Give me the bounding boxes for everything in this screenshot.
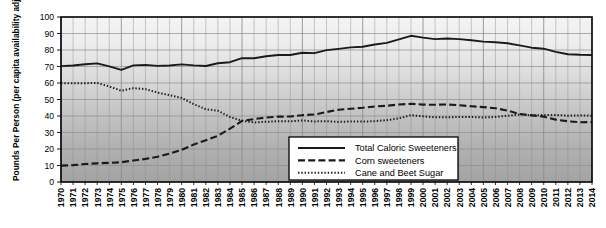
x-tick-label: 1988 (274, 188, 284, 207)
x-tick-label: 1991 (310, 188, 320, 207)
x-tick-label: 1992 (322, 188, 332, 207)
y-tick-label: 40 (44, 111, 54, 121)
x-axis-ticks: 1970197119721973197419751976197719781979… (56, 182, 597, 207)
x-tick-label: 1982 (201, 188, 211, 207)
x-tick-label: 1975 (117, 188, 127, 207)
legend-label: Corn sweeteners (355, 156, 425, 166)
x-tick-label: 1993 (334, 188, 344, 207)
y-tick-label: 90 (44, 29, 54, 39)
x-tick-label: 2005 (479, 188, 489, 207)
legend-label: Cane and Beet Sugar (355, 168, 443, 178)
x-tick-label: 1978 (153, 188, 163, 207)
y-tick-label: 10 (44, 161, 54, 171)
x-tick-label: 1984 (225, 188, 235, 207)
x-tick-label: 2014 (587, 188, 597, 207)
x-tick-label: 1985 (237, 188, 247, 207)
x-tick-label: 1987 (261, 188, 271, 207)
x-tick-label: 1980 (177, 188, 187, 207)
y-tick-label: 0 (49, 177, 54, 187)
x-tick-label: 2002 (442, 188, 452, 207)
x-tick-label: 2013 (575, 188, 585, 207)
x-tick-label: 1997 (382, 188, 392, 207)
x-tick-label: 1990 (298, 188, 308, 207)
x-tick-label: 2006 (491, 188, 501, 207)
chart-container: Pounds Per Person (per capita availabili… (0, 0, 606, 228)
y-tick-label: 50 (44, 95, 54, 105)
chart-plot: 0102030405060708090100 19701971197219731… (0, 0, 606, 228)
x-tick-label: 1986 (249, 188, 259, 207)
x-tick-label: 1995 (358, 188, 368, 207)
x-tick-label: 1981 (189, 188, 199, 207)
x-tick-label: 2007 (503, 188, 513, 207)
chart-legend: Total Caloric SweetenersCorn sweetenersC… (289, 137, 458, 180)
x-tick-label: 1971 (68, 188, 78, 207)
x-tick-label: 1972 (80, 188, 90, 207)
y-tick-label: 30 (44, 128, 54, 138)
y-tick-label: 60 (44, 78, 54, 88)
y-tick-label: 100 (40, 12, 55, 22)
x-tick-label: 2009 (527, 188, 537, 207)
x-tick-label: 2011 (551, 188, 561, 207)
y-tick-label: 20 (44, 144, 54, 154)
x-tick-label: 2003 (455, 188, 465, 207)
y-tick-label: 70 (44, 62, 54, 72)
x-tick-label: 1983 (213, 188, 223, 207)
x-tick-label: 1979 (165, 188, 175, 207)
x-tick-label: 1970 (56, 188, 66, 207)
y-axis-ticks: 0102030405060708090100 (40, 12, 61, 187)
legend-label: Total Caloric Sweeteners (355, 143, 457, 153)
x-tick-label: 1977 (141, 188, 151, 207)
x-tick-label: 2012 (563, 188, 573, 207)
x-tick-label: 2001 (430, 188, 440, 207)
x-tick-label: 2008 (515, 188, 525, 207)
x-tick-label: 2010 (539, 188, 549, 207)
x-tick-label: 1996 (370, 188, 380, 207)
x-tick-label: 1976 (129, 188, 139, 207)
x-tick-label: 1994 (346, 188, 356, 207)
x-tick-label: 2000 (418, 188, 428, 207)
x-tick-label: 2004 (467, 188, 477, 207)
y-tick-label: 80 (44, 45, 54, 55)
x-tick-label: 1974 (105, 188, 115, 207)
x-tick-label: 1998 (394, 188, 404, 207)
x-tick-label: 1989 (286, 188, 296, 207)
x-tick-label: 1999 (406, 188, 416, 207)
x-tick-label: 1973 (93, 188, 103, 207)
